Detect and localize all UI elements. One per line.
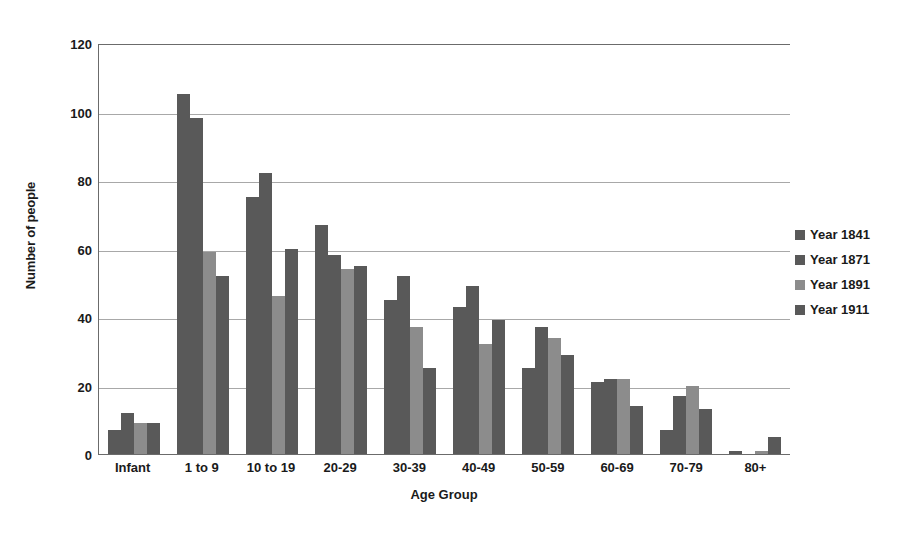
bar bbox=[121, 413, 134, 454]
bar bbox=[354, 266, 367, 454]
bar bbox=[492, 320, 505, 454]
bar bbox=[108, 430, 121, 454]
x-axis-title: Age Group bbox=[98, 487, 790, 502]
y-axis-title: Number of people bbox=[12, 0, 50, 470]
legend-label: Year 1871 bbox=[810, 252, 870, 267]
bar bbox=[190, 118, 203, 454]
legend-label: Year 1841 bbox=[810, 227, 870, 242]
bar bbox=[755, 451, 768, 454]
bar bbox=[285, 249, 298, 455]
legend-label: Year 1911 bbox=[810, 302, 869, 317]
bar bbox=[272, 296, 285, 454]
legend-item: Year 1891 bbox=[795, 272, 870, 297]
x-tick-label: 10 to 19 bbox=[236, 460, 305, 475]
bar bbox=[522, 368, 535, 454]
x-tick-label: 30-39 bbox=[375, 460, 444, 475]
legend-swatch-icon bbox=[795, 255, 805, 265]
bar bbox=[147, 423, 160, 454]
legend-item: Year 1871 bbox=[795, 247, 870, 272]
bar bbox=[341, 269, 354, 454]
bar bbox=[259, 173, 272, 454]
bar bbox=[246, 197, 259, 454]
x-tick-label: 80+ bbox=[721, 460, 790, 475]
y-axis-title-label: Number of people bbox=[24, 181, 39, 288]
bar bbox=[768, 437, 781, 454]
x-tick-label: 1 to 9 bbox=[167, 460, 236, 475]
x-tick-label: 20-29 bbox=[306, 460, 375, 475]
x-tick-label: 40-49 bbox=[444, 460, 513, 475]
bar-group bbox=[444, 45, 513, 454]
y-tick-label: 80 bbox=[78, 174, 92, 189]
bar bbox=[548, 338, 561, 454]
y-tick-label: 40 bbox=[78, 311, 92, 326]
y-axis-tick-labels: 020406080100120 bbox=[52, 44, 92, 455]
y-tick-label: 0 bbox=[85, 448, 92, 463]
bar-group bbox=[583, 45, 652, 454]
bar-group bbox=[237, 45, 306, 454]
bars-layer bbox=[99, 45, 790, 454]
bar bbox=[466, 286, 479, 454]
bar bbox=[134, 423, 147, 454]
plot-area bbox=[98, 44, 790, 455]
bar-group bbox=[375, 45, 444, 454]
y-tick-label: 120 bbox=[70, 37, 92, 52]
bar bbox=[397, 276, 410, 454]
bar bbox=[384, 300, 397, 454]
bar bbox=[604, 379, 617, 454]
bar-group bbox=[306, 45, 375, 454]
bar bbox=[660, 430, 673, 454]
bar-group bbox=[652, 45, 721, 454]
bar bbox=[673, 396, 686, 454]
bar bbox=[203, 252, 216, 454]
bar-group bbox=[168, 45, 237, 454]
legend-label: Year 1891 bbox=[810, 277, 870, 292]
legend-item: Year 1841 bbox=[795, 222, 870, 247]
y-tick-label: 20 bbox=[78, 379, 92, 394]
bar bbox=[591, 382, 604, 454]
bar bbox=[617, 379, 630, 454]
bar-group bbox=[721, 45, 790, 454]
bar bbox=[699, 409, 712, 454]
bar bbox=[315, 225, 328, 454]
bar-group bbox=[514, 45, 583, 454]
bar bbox=[453, 307, 466, 454]
y-tick-label: 60 bbox=[78, 242, 92, 257]
bar bbox=[561, 355, 574, 454]
bar bbox=[686, 386, 699, 455]
y-tick-label: 100 bbox=[70, 105, 92, 120]
bar bbox=[479, 344, 492, 454]
legend-swatch-icon bbox=[795, 305, 805, 315]
bar bbox=[328, 255, 341, 454]
legend-swatch-icon bbox=[795, 280, 805, 290]
x-tick-label: Infant bbox=[98, 460, 167, 475]
bar-group bbox=[99, 45, 168, 454]
legend-swatch-icon bbox=[795, 230, 805, 240]
bar bbox=[729, 451, 742, 454]
legend: Year 1841Year 1871Year 1891Year 1911 bbox=[795, 222, 870, 322]
x-tick-label: 50-59 bbox=[513, 460, 582, 475]
bar bbox=[216, 276, 229, 454]
bar bbox=[177, 94, 190, 454]
bar bbox=[535, 327, 548, 454]
legend-item: Year 1911 bbox=[795, 297, 870, 322]
x-axis-tick-labels: Infant1 to 910 to 1920-2930-3940-4950-59… bbox=[98, 460, 790, 475]
bar bbox=[630, 406, 643, 454]
bar bbox=[423, 368, 436, 454]
x-tick-label: 70-79 bbox=[652, 460, 721, 475]
bar bbox=[410, 327, 423, 454]
x-tick-label: 60-69 bbox=[582, 460, 651, 475]
bar-chart: Number of people 020406080100120 Infant1… bbox=[0, 0, 920, 548]
